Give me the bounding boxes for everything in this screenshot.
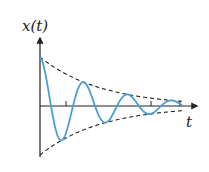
y-axis-label: x(t): [22, 17, 48, 35]
upper-decay-envelope: [40, 57, 182, 101]
x-axis-label: t: [186, 113, 193, 131]
damped-oscillation-curve: [40, 57, 182, 140]
damped-oscillation-diagram: x(t) t: [0, 0, 209, 172]
